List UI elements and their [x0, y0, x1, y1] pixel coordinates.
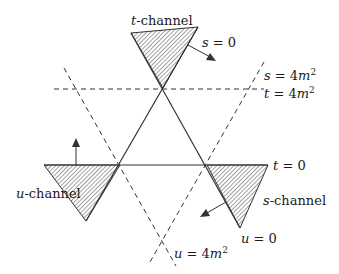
arrow-t0-head [72, 138, 80, 147]
label-u-4m2: u = 4m2 [174, 246, 228, 260]
t4-var: m [297, 86, 309, 101]
s-channel-label: s-channel [263, 194, 326, 207]
arrow-u0 [205, 202, 226, 214]
label-s-0: s = 0 [202, 36, 236, 49]
s4-rhs: = 4 [275, 68, 298, 83]
u4-lhs: u [174, 246, 182, 261]
label-s-4m2: s = 4m2 [264, 68, 316, 82]
u0-lhs: u [241, 231, 249, 246]
s0-lhs: s [202, 35, 209, 50]
arrow-s0-head [206, 53, 216, 61]
u-channel-rest: -channel [24, 186, 80, 201]
t0-lhs: t [273, 158, 278, 173]
t-channel-label: t-channel [131, 14, 193, 27]
u4-var: m [210, 246, 222, 261]
u-channel-label: u-channel [16, 187, 81, 200]
u4-exp: 2 [222, 245, 228, 255]
u0-rhs: = 0 [254, 231, 277, 246]
arrow-u0-head [200, 209, 210, 217]
label-t-0: t = 0 [273, 159, 306, 172]
t4-exp: 2 [309, 85, 315, 95]
t-channel-rest: -channel [136, 13, 192, 28]
t4-lhs: t [264, 86, 269, 101]
mandelstam-diagram [0, 0, 339, 274]
t-channel-region [131, 27, 198, 88]
s4-lhs: s [264, 68, 271, 83]
u4-rhs: = 4 [187, 246, 210, 261]
s-channel-region [207, 165, 268, 228]
s-channel-var: s [263, 193, 270, 208]
t0-rhs: = 0 [282, 158, 305, 173]
s4-var: m [298, 68, 310, 83]
label-t-4m2: t = 4m2 [264, 86, 315, 100]
s4-exp: 2 [310, 67, 316, 77]
s-channel-rest: -channel [270, 193, 326, 208]
t4-rhs: = 4 [273, 86, 296, 101]
label-u-0: u = 0 [241, 232, 277, 245]
s0-rhs: = 0 [213, 35, 236, 50]
